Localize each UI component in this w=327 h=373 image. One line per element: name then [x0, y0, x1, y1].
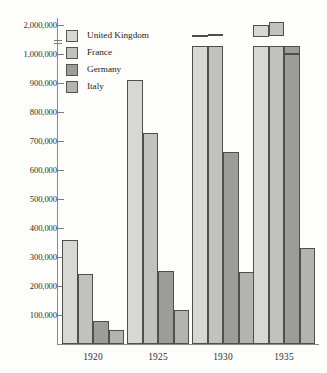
bar-germany-1935-upper: [284, 53, 300, 55]
y-axis-break-marker: [54, 43, 62, 44]
y-axis-break-marker: [54, 40, 62, 41]
bar-france-1935-lower: [269, 46, 285, 345]
x-axis-line: [57, 344, 319, 345]
bar-italy-1925: [174, 310, 190, 344]
legend-item-label: Germany: [87, 65, 121, 74]
legend-swatch-icon: [66, 81, 78, 93]
y-axis-tick-label: 900,000: [3, 79, 57, 88]
bar-italy-1920: [109, 330, 125, 345]
y-axis-tick-label: 200,000: [3, 282, 57, 291]
bar-united-kingdom-1930-lower: [192, 46, 208, 345]
y-axis-tick-label: 600,000: [3, 166, 57, 175]
chart-legend: United KingdomFranceGermanyItaly: [66, 27, 149, 95]
bar-france-1920: [78, 274, 94, 344]
y-axis-tick: [57, 83, 64, 84]
y-axis-tick: [57, 170, 64, 171]
y-axis-tick: [57, 199, 64, 200]
bar-france-1930-upper: [208, 34, 224, 37]
y-axis-tick: [57, 25, 64, 26]
bar-chart: 100,000200,000300,000400,000500,000600,0…: [0, 0, 327, 373]
y-axis-line: [57, 18, 58, 345]
bar-germany-1930: [223, 152, 239, 344]
legend-item-italy: Italy: [66, 78, 149, 95]
y-axis-tick: [57, 228, 64, 229]
legend-item-germany: Germany: [66, 61, 149, 78]
y-axis-tick-label: 500,000: [3, 195, 57, 204]
bar-france-1935-upper: [269, 22, 285, 36]
bar-france-1930-lower: [208, 46, 224, 345]
y-axis-tick-label: 400,000: [3, 224, 57, 233]
bar-united-kingdom-1935-lower: [253, 46, 269, 345]
bar-italy-1935: [300, 248, 316, 344]
y-axis-tick-label: 1,000,000: [3, 50, 57, 59]
legend-swatch-icon: [66, 47, 78, 59]
y-axis-tick-label: 700,000: [3, 137, 57, 146]
y-axis-tick: [57, 112, 64, 113]
legend-item-france: France: [66, 44, 149, 61]
x-axis-label-1935: 1935: [244, 352, 324, 362]
y-axis-labels: 100,000200,000300,000400,000500,000600,0…: [0, 0, 57, 373]
y-axis-tick-label: 800,000: [3, 108, 57, 117]
legend-swatch-icon: [66, 30, 78, 42]
legend-swatch-icon: [66, 64, 78, 76]
bar-united-kingdom-1925: [127, 80, 143, 344]
y-axis-tick-label: 300,000: [3, 253, 57, 262]
bar-germany-1935-lower: [284, 46, 300, 345]
y-axis-tick: [57, 54, 64, 55]
bar-germany-1925: [158, 271, 174, 344]
y-axis-tick-label: 2,000,000: [3, 21, 57, 30]
bar-united-kingdom-1930-upper: [192, 35, 208, 37]
bar-france-1925: [143, 133, 159, 344]
bar-united-kingdom-1920: [62, 240, 78, 344]
legend-item-label: Italy: [87, 82, 104, 91]
bar-germany-1920: [93, 321, 109, 344]
y-axis-tick: [57, 141, 64, 142]
legend-item-label: France: [87, 48, 112, 57]
legend-item-label: United Kingdom: [87, 31, 149, 40]
bar-italy-1930: [239, 272, 255, 344]
y-axis-tick-label: 100,000: [3, 311, 57, 320]
legend-item-united-kingdom: United Kingdom: [66, 27, 149, 44]
bar-united-kingdom-1935-upper: [253, 25, 269, 37]
